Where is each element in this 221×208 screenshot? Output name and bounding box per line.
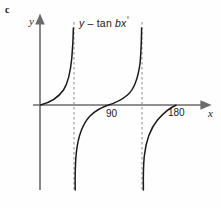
tangent-graph-figure: c y x y – tan bx° 90 180 bbox=[0, 0, 221, 208]
x-tick-label-180: 180 bbox=[168, 108, 185, 118]
tangent-branch-1 bbox=[41, 28, 74, 105]
y-axis-label: y bbox=[29, 16, 34, 27]
equation-bx-term: bx bbox=[115, 17, 127, 29]
equation-tan-term: tan bbox=[97, 17, 112, 29]
equation-degree-symbol: ° bbox=[127, 16, 130, 23]
x-tick-label-90: 90 bbox=[106, 109, 117, 119]
x-axis-label: x bbox=[208, 108, 213, 119]
plot-canvas bbox=[0, 0, 221, 208]
part-label: c bbox=[5, 5, 9, 15]
equation-annotation: y – tan bx° bbox=[79, 16, 130, 28]
tangent-branch-3 bbox=[143, 105, 176, 190]
